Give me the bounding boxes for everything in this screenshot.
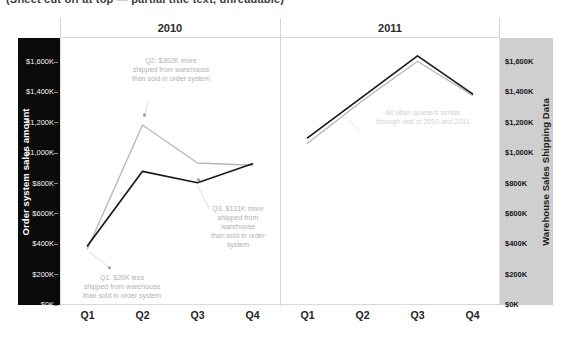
axis-tick-mark bbox=[54, 62, 58, 63]
axis-tick-label: $1,200K bbox=[505, 119, 533, 127]
axis-tick-label: $200K bbox=[505, 271, 527, 279]
axis-tick-mark bbox=[54, 122, 58, 123]
clipped-top-text: (Sheet cut off at top — partial title te… bbox=[0, 0, 571, 7]
chart-root: (Sheet cut off at top — partial title te… bbox=[0, 0, 571, 340]
annotation-q3-2010: Q3. $131K more shipped from warehouse th… bbox=[186, 204, 290, 249]
annotation-rest-similar: All other quarters similar through rest … bbox=[366, 108, 480, 126]
annotation-marker bbox=[143, 113, 146, 116]
x-axis-tick-q2-2011: Q2 bbox=[335, 308, 390, 322]
x-axis-tick-q3-2010: Q3 bbox=[170, 308, 225, 322]
annotation-leader-line bbox=[346, 118, 360, 130]
axis-tick-label: $1,600K bbox=[26, 58, 54, 66]
axis-tick-label: $1,400K bbox=[505, 88, 533, 96]
annotation-leader-line bbox=[145, 101, 149, 115]
x-axis-tick-q4-2011: Q4 bbox=[445, 308, 500, 322]
x-axis-tick-q3-2011: Q3 bbox=[390, 308, 445, 322]
axis-tick-mark bbox=[54, 244, 58, 245]
axis-tick-label: $600K bbox=[32, 210, 54, 218]
x-axis-labels: Q1Q2Q3Q4Q1Q2Q3Q4 bbox=[60, 308, 500, 324]
annotation-marker bbox=[197, 178, 200, 181]
axis-tick-mark bbox=[54, 213, 58, 214]
annotation-leader-line bbox=[90, 252, 110, 268]
axis-tick-label: $1,200K bbox=[26, 119, 54, 127]
x-axis-tick-q1-2010: Q1 bbox=[60, 308, 115, 322]
axis-tick-mark bbox=[54, 92, 58, 93]
axis-tick-label: $600K bbox=[505, 210, 527, 218]
axis-tick-label: $0K bbox=[41, 301, 54, 309]
year-header-band: 2010 2011 bbox=[60, 18, 500, 38]
axis-tick-label: $400K bbox=[505, 240, 527, 248]
right-axis: Warehouse Sales Shipping Data $1,600K$1,… bbox=[500, 38, 553, 305]
axis-tick-label: $1,600K bbox=[505, 58, 533, 66]
annotation-marker bbox=[108, 266, 111, 269]
axis-tick-label: $1,000K bbox=[505, 149, 533, 157]
axis-tick-label: $200K bbox=[32, 271, 54, 279]
left-axis-title: Order system sales amount bbox=[20, 108, 31, 235]
axis-tick-label: $1,400K bbox=[26, 88, 54, 96]
axis-tick-mark bbox=[54, 183, 58, 184]
x-axis-tick-q4-2010: Q4 bbox=[225, 308, 280, 322]
axis-tick-label: $0K bbox=[505, 301, 519, 309]
x-axis-tick-q1-2011: Q1 bbox=[280, 308, 335, 322]
x-axis-tick-q2-2010: Q2 bbox=[115, 308, 170, 322]
axis-tick-label: $400K bbox=[32, 240, 54, 248]
panel-title-2010: 2010 bbox=[60, 20, 280, 36]
left-axis: Order system sales amount $1,600K$1,400K… bbox=[18, 38, 60, 305]
right-axis-title: Warehouse Sales Shipping Data bbox=[540, 98, 551, 246]
axis-tick-mark bbox=[54, 153, 58, 154]
axis-tick-label: $800K bbox=[505, 180, 527, 188]
axis-tick-mark bbox=[54, 305, 58, 306]
axis-tick-label: $800K bbox=[32, 180, 54, 188]
series-line-warehouse-2011 bbox=[308, 61, 473, 143]
annotation-q1-2010: Q1. $20K less shipped from warehouse tha… bbox=[58, 273, 186, 300]
axis-tick-label: $1,000K bbox=[26, 149, 54, 157]
annotation-q2-2010: Q2. $302K more shipped from warehouse th… bbox=[108, 56, 234, 83]
panel-title-2011: 2011 bbox=[280, 20, 500, 36]
